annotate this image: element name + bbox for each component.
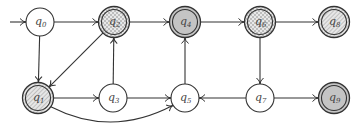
state-q4: q4: [170, 7, 201, 38]
state-q8: q8: [319, 7, 350, 38]
transitions: [10, 22, 319, 122]
edge-q2-q1: [49, 33, 103, 87]
state-q2: q2: [99, 7, 130, 38]
edge-q3-q2: [113, 37, 114, 84]
state-q7: q7: [246, 84, 274, 112]
edge-q0-q1: [38, 36, 39, 83]
state-q1: q1: [23, 83, 54, 114]
state-q6: q6: [245, 7, 276, 38]
state-q5: q5: [171, 84, 199, 112]
state-q0: q0: [26, 8, 54, 36]
state-q3: q3: [99, 84, 127, 112]
state-q9: q9: [319, 83, 350, 114]
automaton-diagram: q0q1q2q3q4q5q6q7q8q9: [0, 0, 362, 125]
